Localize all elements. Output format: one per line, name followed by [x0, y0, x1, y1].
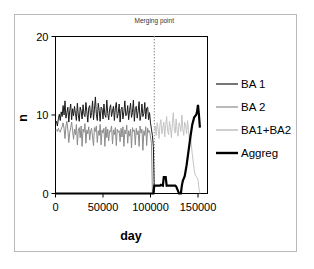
y-tick-label: 0 — [42, 188, 48, 200]
series-line-ba-2 — [56, 121, 153, 192]
y-axis-title: n — [16, 114, 30, 122]
chart-legend: BA 1BA 2BA1+BA2Aggreg — [216, 78, 291, 159]
x-tick-label: 0 — [52, 201, 58, 213]
figure-container: Merging point 01020 050000100000150000 d… — [0, 0, 314, 269]
chart-canvas: Merging point 01020 050000100000150000 d… — [0, 0, 314, 269]
legend-label-ba-2: BA 2 — [241, 101, 265, 113]
legend-label-aggreg: Aggreg — [241, 147, 278, 159]
x-tick-label: 150000 — [180, 201, 217, 213]
x-axis-ticks: 050000100000150000 — [52, 194, 216, 213]
series-line-aggreg — [56, 105, 200, 194]
x-axis-title: day — [120, 229, 142, 243]
merging-point-label: Merging point — [135, 17, 175, 25]
legend-label-ba1-ba2: BA1+BA2 — [241, 124, 291, 136]
data-series-group — [56, 97, 200, 194]
x-tick-label: 100000 — [132, 201, 169, 213]
merging-point-annotation: Merging point — [135, 17, 175, 193]
y-axis-ticks: 01020 — [36, 31, 55, 200]
legend-label-ba-1: BA 1 — [241, 78, 265, 90]
y-tick-label: 10 — [36, 109, 48, 121]
y-tick-label: 20 — [36, 31, 48, 43]
x-tick-label: 50000 — [88, 201, 119, 213]
